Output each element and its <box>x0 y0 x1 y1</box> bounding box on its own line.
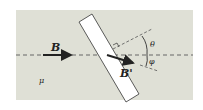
medium-label: μ <box>39 76 44 85</box>
theta-label: θ <box>150 40 155 49</box>
phi-arc <box>146 55 147 66</box>
theta-arc <box>142 36 147 55</box>
incident-field-label: B <box>50 41 60 54</box>
refraction-diagram: B B' μ θ φ <box>0 0 203 110</box>
slab <box>79 14 139 102</box>
phi-label: φ <box>149 57 155 66</box>
transmitted-field-label: B' <box>119 67 133 80</box>
